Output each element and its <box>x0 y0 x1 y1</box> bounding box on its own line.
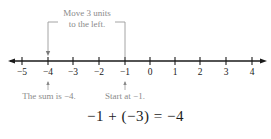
annotation-sum: The sum is −4. <box>22 91 76 101</box>
tick-label: 2 <box>198 67 203 77</box>
tick-label: 0 <box>148 67 153 77</box>
arrow-up-icon <box>123 81 126 85</box>
equation: −1 + (−3) = −4 <box>0 108 271 125</box>
right-arrow-icon <box>260 59 267 64</box>
annotation-start: Start at −1. <box>105 91 145 101</box>
arrow-up-icon <box>46 81 49 85</box>
bracket-label: Move 3 units to the left. <box>63 8 111 29</box>
tick-label: −1 <box>120 67 130 77</box>
tick-label: 4 <box>250 67 255 77</box>
tick-label: 1 <box>173 67 178 77</box>
tick-label: −4 <box>43 67 53 77</box>
left-arrow-icon <box>8 59 15 64</box>
bracket-label-line2: to the left. <box>69 19 106 29</box>
tick-labels: −5 −4 −3 −2 −1 0 1 2 3 4 <box>17 67 255 77</box>
tick-label: 3 <box>224 67 229 77</box>
annotations: The sum is −4. Start at −1. <box>22 91 145 101</box>
number-line-axis <box>8 57 267 65</box>
tick-label: −3 <box>68 67 78 77</box>
bracket-label-line1: Move 3 units <box>63 8 111 18</box>
tick-label: −2 <box>94 67 104 77</box>
arrow-down-icon <box>46 51 50 56</box>
tick-label: −5 <box>17 67 27 77</box>
